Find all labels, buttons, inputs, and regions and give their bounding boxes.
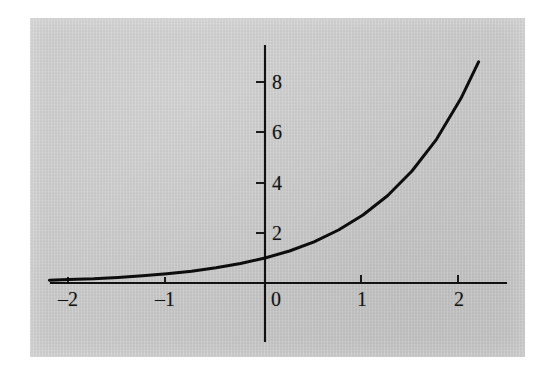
y-axis-label-six: 6	[272, 122, 282, 142]
y-axis-label-two: 2	[272, 223, 282, 243]
y-axis-label-four: 4	[272, 173, 282, 193]
x-axis-label-minus-2: –2	[58, 289, 78, 309]
x-axis-label-one: 1	[357, 289, 367, 309]
figure-page: –2 –1 0 1 2 2 4 6 8	[0, 0, 549, 372]
x-axis-label-minus-1: –1	[155, 289, 175, 309]
y-axis-label-eight: 8	[272, 72, 282, 92]
x-axis-label-two: 2	[454, 289, 464, 309]
x-axis-label-zero: 0	[271, 289, 281, 309]
